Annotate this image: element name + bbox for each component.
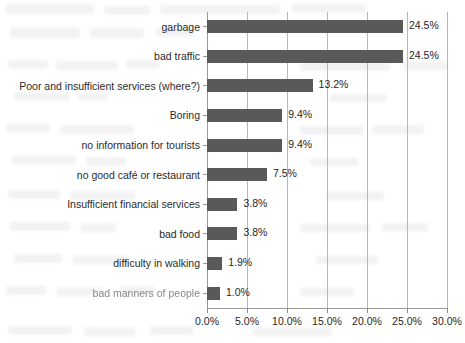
value-label: 9.4%	[288, 139, 312, 150]
x-tick	[247, 308, 248, 313]
x-tick-label: 20.0%	[352, 315, 382, 327]
bar: 24.5%	[207, 50, 403, 63]
x-tick-label: 15.0%	[312, 315, 342, 327]
value-label: 24.5%	[409, 50, 439, 61]
x-axis: 0.0% 5.0% 10.0% 15.0% 20.0% 25.0% 30.0%	[207, 308, 447, 338]
bar-row: Boring 9.4%	[207, 101, 447, 131]
value-label: 1.9%	[228, 257, 252, 268]
category-label: Insufficient financial services	[67, 199, 200, 210]
x-tick-label: 5.0%	[235, 315, 259, 327]
bar: 3.8%	[207, 227, 237, 240]
category-label: bad manners of people	[93, 288, 200, 299]
x-tick-label: 10.0%	[272, 315, 302, 327]
category-label: difficulty in walking	[113, 258, 200, 269]
value-label: 9.4%	[288, 109, 312, 120]
x-tick-label: 0.0%	[195, 315, 219, 327]
x-tick	[287, 308, 288, 313]
x-tick-label: 30.0%	[432, 315, 462, 327]
category-label: Poor and insufficient services (where?)	[19, 81, 200, 92]
value-label: 1.0%	[226, 287, 250, 298]
bar: 9.4%	[207, 109, 282, 122]
category-label: Boring	[170, 110, 200, 121]
bar: 1.0%	[207, 287, 220, 300]
value-label: 24.5%	[409, 20, 439, 31]
category-label: bad food	[159, 229, 200, 240]
bar-row: garbage 24.5%	[207, 12, 447, 42]
bar-chart: garbage 24.5% bad traffic 24.5% Poor and…	[0, 0, 465, 343]
bar-row: difficulty in walking 1.9%	[207, 249, 447, 279]
x-tick	[367, 308, 368, 313]
value-label: 3.8%	[243, 198, 267, 209]
bar-row: bad manners of people 1.0%	[207, 278, 447, 308]
category-label: no information for tourists	[82, 140, 200, 151]
x-tick	[447, 308, 448, 313]
bar-row: Insufficient financial services 3.8%	[207, 190, 447, 220]
bar: 13.2%	[207, 79, 313, 92]
plot-area: garbage 24.5% bad traffic 24.5% Poor and…	[207, 12, 447, 308]
bar-row: bad traffic 24.5%	[207, 42, 447, 72]
bar: 24.5%	[207, 20, 403, 33]
bar-rows: garbage 24.5% bad traffic 24.5% Poor and…	[207, 12, 447, 308]
bar-row: no good café or restaurant 7.5%	[207, 160, 447, 190]
bar: 1.9%	[207, 257, 222, 270]
bar: 7.5%	[207, 168, 267, 181]
bar-row: bad food 3.8%	[207, 219, 447, 249]
x-tick	[407, 308, 408, 313]
x-tick-label: 25.0%	[392, 315, 422, 327]
category-label: garbage	[161, 22, 200, 33]
category-label: no good café or restaurant	[77, 170, 200, 181]
bar-row: no information for tourists 9.4%	[207, 130, 447, 160]
category-label: bad traffic	[154, 51, 200, 62]
value-label: 3.8%	[243, 227, 267, 238]
bar: 3.8%	[207, 198, 237, 211]
value-label: 13.2%	[319, 79, 349, 90]
gridline-30	[447, 12, 448, 308]
bar: 9.4%	[207, 139, 282, 152]
x-tick	[207, 308, 208, 313]
value-label: 7.5%	[273, 168, 297, 179]
bar-row: Poor and insufficient services (where?) …	[207, 71, 447, 101]
x-tick	[327, 308, 328, 313]
